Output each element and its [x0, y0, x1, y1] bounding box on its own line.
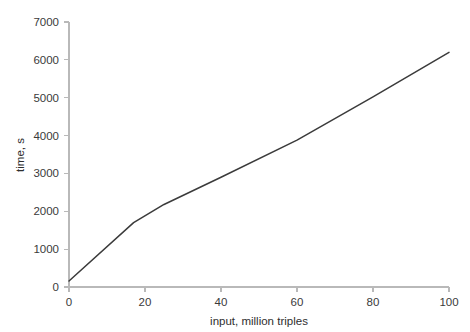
y-tick-label-3000: 3000 — [33, 167, 59, 179]
series-line-loading-time — [69, 52, 449, 281]
y-tick-label-5000: 5000 — [33, 92, 59, 104]
y-tick-label-4000: 4000 — [33, 130, 59, 142]
x-tick-label-80: 80 — [367, 296, 380, 308]
y-axis-title: time, s — [14, 138, 26, 172]
y-tick-label-1000: 1000 — [33, 243, 59, 255]
x-tick-labels: 0 20 40 60 80 100 — [66, 296, 459, 308]
y-tick-label-0: 0 — [53, 281, 59, 293]
y-tick-labels: 0 1000 2000 3000 4000 5000 6000 7000 — [33, 16, 59, 293]
x-axis-title: input, million triples — [210, 315, 308, 327]
x-tick-label-20: 20 — [139, 296, 152, 308]
line-chart: 0 1000 2000 3000 4000 5000 6000 7000 tim… — [0, 0, 470, 332]
x-tick-label-60: 60 — [291, 296, 304, 308]
x-axis: 0 20 40 60 80 100 input, million triples — [66, 287, 459, 327]
x-tick-label-40: 40 — [215, 296, 228, 308]
y-axis-ticks — [64, 22, 69, 287]
y-tick-label-7000: 7000 — [33, 16, 59, 28]
chart-page: 0 1000 2000 3000 4000 5000 6000 7000 tim… — [0, 0, 470, 332]
y-tick-label-2000: 2000 — [33, 205, 59, 217]
x-tick-label-100: 100 — [439, 296, 458, 308]
x-axis-ticks — [69, 287, 449, 292]
x-tick-label-0: 0 — [66, 296, 72, 308]
y-axis: 0 1000 2000 3000 4000 5000 6000 7000 tim… — [14, 16, 69, 293]
y-tick-label-6000: 6000 — [33, 54, 59, 66]
